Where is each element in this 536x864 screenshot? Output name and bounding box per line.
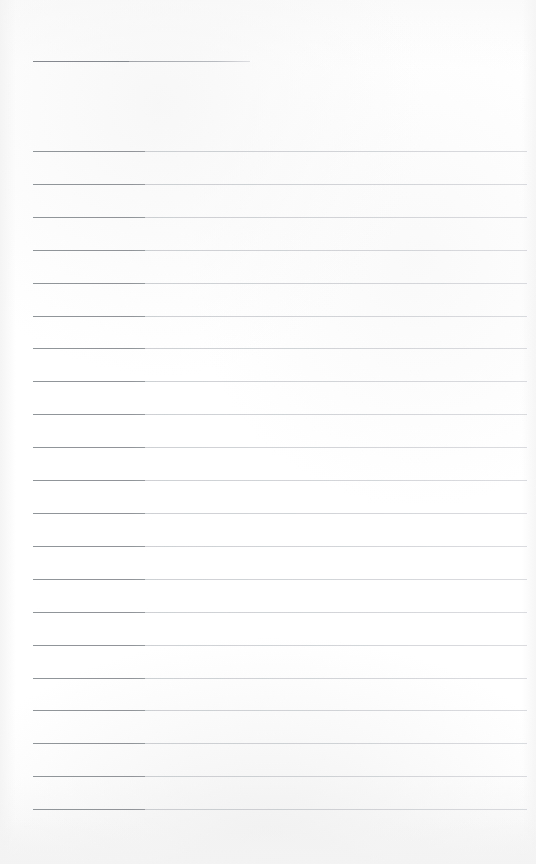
rule-line[interactable]: [33, 743, 527, 744]
title-rule[interactable]: [33, 61, 250, 62]
rule-line[interactable]: [33, 217, 527, 218]
rule-line[interactable]: [33, 678, 527, 679]
rule-line[interactable]: [33, 513, 527, 514]
rule-line[interactable]: [33, 645, 527, 646]
rule-line[interactable]: [33, 381, 527, 382]
rule-line[interactable]: [33, 151, 527, 152]
rule-line[interactable]: [33, 414, 527, 415]
paper-texture: [0, 0, 536, 864]
left-edge-shading: [0, 0, 16, 864]
bottom-edge-shading: [0, 818, 536, 864]
rule-line[interactable]: [33, 612, 527, 613]
rule-line[interactable]: [33, 776, 527, 777]
rule-line[interactable]: [33, 447, 527, 448]
rule-line[interactable]: [33, 250, 527, 251]
rule-line[interactable]: [33, 710, 527, 711]
page-content-text: [0, 0, 1, 1]
rule-line[interactable]: [33, 546, 527, 547]
rule-line[interactable]: [33, 348, 527, 349]
rule-line[interactable]: [33, 316, 527, 317]
rule-line[interactable]: [33, 809, 527, 810]
rule-line[interactable]: [33, 579, 527, 580]
rule-line[interactable]: [33, 480, 527, 481]
right-edge-shading: [522, 0, 536, 864]
rule-line[interactable]: [33, 283, 527, 284]
rule-line[interactable]: [33, 184, 527, 185]
ruled-page: [0, 0, 536, 864]
